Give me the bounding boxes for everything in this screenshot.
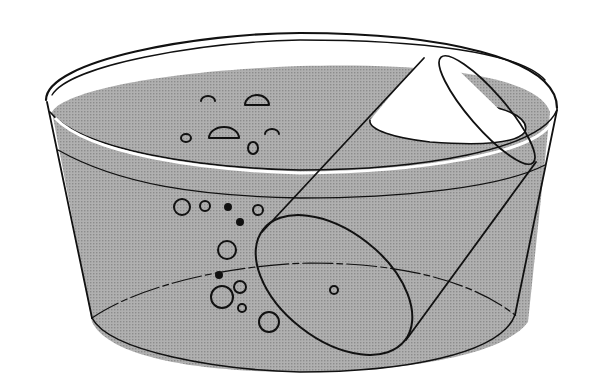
bubble-icon [216,272,222,278]
bubble-icon [237,219,243,225]
dish-illustration [0,0,593,392]
bubble-icon [225,204,231,210]
figure [0,0,593,392]
